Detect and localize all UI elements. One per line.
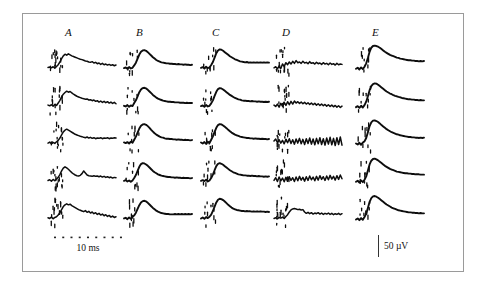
voltage-scalebar-label: 50 µV [384,241,408,251]
trace-b1 [124,45,192,79]
trace-c3 [201,120,269,154]
trace-a5 [48,195,116,229]
trace-e5 [356,195,424,229]
column-header-e: E [372,26,379,38]
trace-b5 [124,195,192,229]
trace-a2 [48,83,116,117]
time-scalebar-dot [95,237,97,239]
column-header-a: A [65,26,72,38]
trace-line [356,120,424,144]
trace-d1 [274,45,342,79]
trace-line [274,137,342,146]
time-scalebar-dot [87,237,89,239]
time-scalebar-dot [62,237,64,239]
trace-c4 [201,158,269,192]
column-header-d: D [282,26,290,38]
trace-b3 [124,120,192,154]
column-header-c: C [212,26,220,38]
time-scalebar-dot [103,237,105,239]
time-scalebar-dot [79,237,81,239]
trace-c2 [201,83,269,117]
trace-b2 [124,83,192,117]
trace-e4 [356,158,424,192]
trace-e1 [356,45,424,79]
trace-d5 [274,195,342,229]
trace-line [356,46,424,70]
trace-b4 [124,158,192,192]
trace-line [274,175,342,182]
time-scalebar-label: 10 ms [54,243,122,253]
trace-line [201,49,269,68]
trace-a1 [48,45,116,79]
trace-e3 [356,120,424,154]
time-scalebar-dot [120,237,122,239]
trace-line [274,209,342,219]
trace-line [201,163,269,181]
trace-e2 [356,83,424,117]
trace-a4 [48,158,116,192]
trace-line [48,91,116,106]
evoked-potential-figure: ABCDE 10 ms 50 µV [0,0,486,286]
trace-line [48,166,116,180]
trace-line [124,87,192,106]
trace-a3 [48,120,116,154]
time-scalebar-dot [70,237,72,239]
time-scalebar-dot [112,237,114,239]
trace-line [124,50,192,69]
trace-d4 [274,158,342,192]
voltage-scalebar [378,235,379,257]
time-scalebar-dot [54,237,56,239]
time-scalebar [54,236,122,239]
column-header-b: B [136,26,143,38]
trace-d3 [274,120,342,154]
trace-line [356,196,424,220]
trace-line [48,54,116,68]
trace-c1 [201,45,269,79]
trace-d2 [274,83,342,117]
trace-c5 [201,195,269,229]
trace-line [201,199,269,219]
